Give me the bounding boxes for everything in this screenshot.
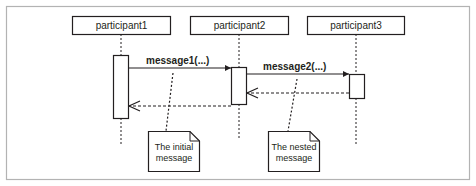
note-the-initial-message[interactable]: The initial message xyxy=(149,132,200,172)
note-text-line2: message xyxy=(276,153,313,163)
activation-participant1 xyxy=(114,56,129,119)
sequence-diagram: participant1 participant2 participant3 m… xyxy=(0,0,476,186)
message-label: message2(...) xyxy=(263,61,326,72)
message-label: message1(...) xyxy=(146,55,209,66)
activation-participant2 xyxy=(232,68,247,105)
note-text-line1: The initial xyxy=(155,142,194,152)
note-text-line2: message xyxy=(156,153,193,163)
participant-participant3[interactable]: participant3 xyxy=(308,17,405,35)
activation-participant3 xyxy=(350,75,365,99)
participant-label: participant2 xyxy=(214,20,266,31)
note-text-line1: The nested xyxy=(271,142,316,152)
note-the-nested-message[interactable]: The nested message xyxy=(269,132,320,172)
participant-participant1[interactable]: participant1 xyxy=(73,17,171,35)
participant-label: participant3 xyxy=(330,20,382,31)
participant-label: participant1 xyxy=(96,20,148,31)
participant-participant2[interactable]: participant2 xyxy=(191,17,289,35)
